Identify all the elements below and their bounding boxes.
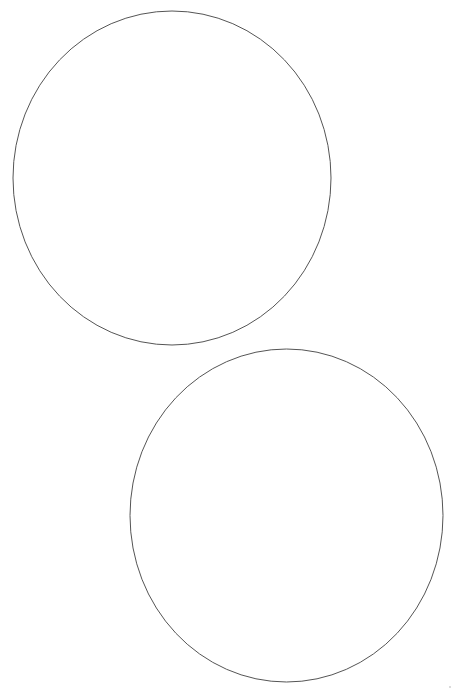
two-circles-figure xyxy=(0,0,456,693)
page-background xyxy=(0,0,456,693)
scan-speck-icon xyxy=(449,686,451,688)
drawing-canvas xyxy=(0,0,456,693)
